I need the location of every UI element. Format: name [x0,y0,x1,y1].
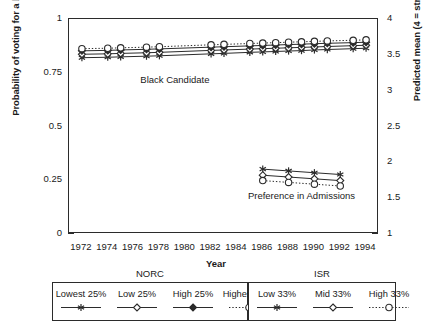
data-point-open-circle [143,44,149,50]
legend-item-label: High 33% [369,289,409,300]
legend-symbol-open-circle [362,301,416,314]
series-layer [69,19,379,234]
legend-item-label: Low 33% [258,289,296,300]
series-line-high-33- [263,181,341,186]
data-point-open-diamond [134,304,141,311]
data-point-filled-diamond [190,304,197,311]
data-point-open-circle [117,45,123,51]
legend-box-isr: Low 33%Mid 33%High 33% [248,282,396,321]
data-point-open-circle [208,42,214,48]
legend-item-label: Lowest 25% [56,289,107,300]
data-point-open-circle [260,177,266,183]
data-point-open-circle [324,38,330,44]
data-point-open-circle [350,37,356,43]
legend-symbol-asterisk [250,301,304,314]
y-left-tick-label: 0.25 [22,173,62,184]
legend-item-label: Low 25% [118,289,156,300]
y-right-tick-label: 3 [387,84,427,95]
data-point-open-circle [298,39,304,45]
legend-item[interactable]: Lowest 25% [53,283,109,320]
y-right-tick-label: 1.5 [387,191,427,202]
legend-box-norc: Lowest 25%Low 25%High 25%Highest 25% [52,282,248,321]
data-point-open-diamond [330,304,337,311]
annotation-label: Preference in Admissions [248,190,355,201]
legend-item-label: Mid 33% [315,289,351,300]
legend-group-title-isr: ISR [248,268,396,279]
y-right-tick-label: 3.5 [387,48,427,59]
data-point-open-circle [285,39,291,45]
y-left-tick-label: 0.75 [22,66,62,77]
data-point-open-circle [247,40,253,46]
chart-figure: Probability of voting for a black candid… [0,0,432,335]
y-axis-left-title: Probability of voting for a black candid… [10,0,21,131]
legend: NORCLowest 25%Low 25%High 25%Highest 25%… [0,268,432,335]
data-point-open-circle [260,40,266,46]
legend-item[interactable]: High 25% [165,283,221,320]
data-point-open-circle [337,183,343,189]
series-line-low-33- [263,169,341,174]
legend-item[interactable]: Low 33% [249,283,305,320]
data-point-open-circle [386,304,392,310]
data-point-open-circle [221,41,227,47]
y-left-tick-label: 0 [22,227,62,238]
data-point-open-circle [285,179,291,185]
legend-item[interactable]: High 33% [361,283,417,320]
data-point-open-circle [363,37,369,43]
series-line-mid-33- [263,175,341,180]
legend-symbol-asterisk [54,301,108,314]
y-right-tick-label: 2.5 [387,120,427,131]
y-right-tick-label: 2 [387,155,427,166]
data-point-open-circle [311,181,317,187]
data-point-open-circle [79,45,85,51]
y-left-tick-label: 1 [22,12,62,23]
legend-item[interactable]: Low 25% [109,283,165,320]
legend-symbol-open-diamond [110,301,164,314]
y-left-tick-label: 0.5 [22,120,62,131]
data-point-open-circle [105,45,111,51]
y-right-tick-label: 4 [387,12,427,23]
legend-item-label: High 25% [173,289,213,300]
x-tick-label: 1994 [345,241,385,252]
data-point-open-circle [272,39,278,45]
annotation-label: Black Candidate [140,74,209,85]
data-point-open-circle [311,38,317,44]
legend-symbol-filled-diamond [166,301,220,314]
legend-item[interactable]: Mid 33% [305,283,361,320]
legend-symbol-open-diamond [306,301,360,314]
y-right-tick-label: 1 [387,227,427,238]
plot-area: Black CandidatePreference in Admissions [68,18,378,233]
legend-group-title-norc: NORC [52,268,248,279]
data-point-open-circle [156,44,162,50]
